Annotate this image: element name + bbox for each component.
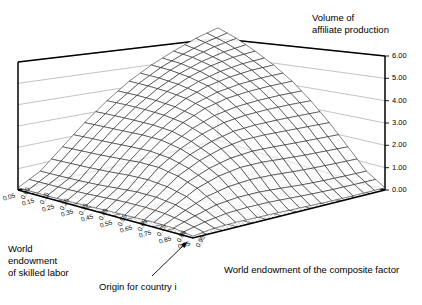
figure-3d-surface-plot: Volume ofaffiliate production World endo… [0, 0, 422, 305]
z-tick-label: 3.00 [392, 118, 407, 128]
z-tick-label: 4.00 [392, 96, 407, 106]
x-axis-title: World endowment of the composite factor [224, 264, 399, 276]
z-tick-label: 6.00 [392, 51, 407, 61]
z-tick-label: 5.00 [392, 73, 407, 83]
z-tick-label: 0.00 [392, 185, 407, 195]
z-axis-title-line2: affiliate production [312, 24, 389, 35]
origin-annotation-label: Origin for country i [99, 281, 177, 293]
y-axis-title-line1: World [8, 243, 33, 254]
z-axis-title-line1: Volume of [312, 12, 354, 23]
y-axis-title-line2: endowment [8, 255, 57, 266]
y-axis-title: Worldendowmentof skilled labor [8, 243, 69, 279]
z-axis-title: Volume ofaffiliate production [312, 12, 389, 36]
z-tick-label: 2.00 [392, 140, 407, 150]
y-axis-title-line3: of skilled labor [8, 267, 69, 278]
z-tick-label: 1.00 [392, 163, 407, 173]
